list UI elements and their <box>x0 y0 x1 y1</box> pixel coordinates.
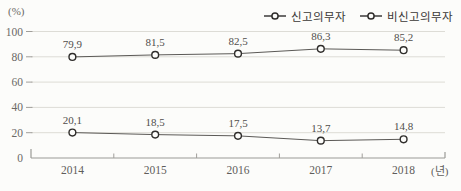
data-point-marker <box>69 54 76 61</box>
y-tick-label: 0 <box>17 152 23 164</box>
x-tick-label: 2014 <box>61 164 84 176</box>
x-tick-label: 2015 <box>144 164 167 176</box>
data-point-label: 86,3 <box>311 30 331 42</box>
data-point-marker <box>69 129 76 136</box>
data-point-marker <box>235 50 242 57</box>
data-point-marker <box>152 52 159 59</box>
y-tick-label: 40 <box>12 101 24 113</box>
data-point-marker <box>400 47 407 54</box>
data-point-label: 17,5 <box>228 117 248 129</box>
data-point-label: 18,5 <box>146 116 166 128</box>
data-point-marker <box>152 131 159 138</box>
data-point-label: 20,1 <box>63 114 82 126</box>
data-point-label: 81,5 <box>146 36 166 48</box>
plot-area: 0204060801002014201520162017201879,981,5… <box>0 0 461 191</box>
data-point-marker <box>317 137 324 144</box>
y-tick-label: 20 <box>12 127 24 139</box>
x-tick-label: 2016 <box>227 164 250 176</box>
y-tick-label: 60 <box>12 76 24 88</box>
x-axis-unit-label: (년) <box>431 162 448 178</box>
line-chart: (%) 신고의무자 비신고의무자 02040608010020142015201… <box>0 0 461 191</box>
x-tick-label: 2018 <box>392 164 415 176</box>
y-tick-label: 100 <box>6 26 24 38</box>
data-point-label: 82,5 <box>228 35 248 47</box>
data-point-label: 14,8 <box>394 120 414 132</box>
data-point-label: 79,9 <box>63 38 83 50</box>
data-point-marker <box>317 45 324 52</box>
data-point-label: 13,7 <box>311 122 331 134</box>
y-tick-label: 80 <box>12 51 24 63</box>
x-tick-label: 2017 <box>309 164 332 176</box>
data-point-label: 85,2 <box>394 31 413 43</box>
data-point-marker <box>235 132 242 139</box>
data-point-marker <box>400 136 407 143</box>
